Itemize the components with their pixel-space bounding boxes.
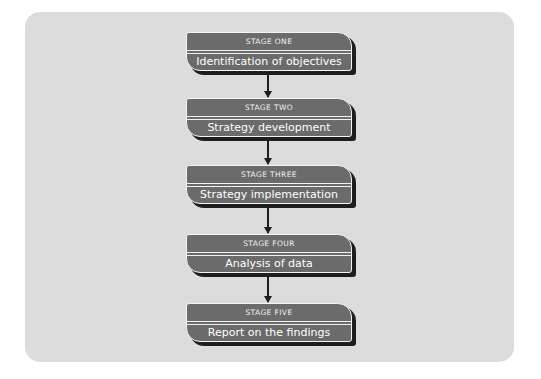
arrow-head-icon (264, 296, 272, 303)
stage-label: STAGE TWO (187, 99, 351, 116)
stage-label: STAGE FOUR (187, 235, 351, 252)
stage-label: STAGE FIVE (187, 304, 351, 321)
stage-title: Analysis of data (187, 256, 351, 272)
stage-box: STAGE ONE Identification of objectives (186, 32, 352, 71)
stage-box: STAGE TWO Strategy development (186, 98, 352, 137)
arrow-down-icon (267, 141, 269, 164)
arrow-head-icon (264, 227, 272, 234)
stage-label: STAGE THREE (187, 166, 351, 183)
arrow-head-icon (264, 158, 272, 165)
arrow-down-icon (267, 208, 269, 233)
stage-five-box: STAGE FIVE Report on the findings (186, 303, 352, 342)
arrow-head-icon (264, 91, 272, 98)
stage-box: STAGE THREE Strategy implementation (186, 165, 352, 204)
stage-three-box: STAGE THREE Strategy implementation (186, 165, 352, 204)
stage-four-box: STAGE FOUR Analysis of data (186, 234, 352, 273)
stage-title: Strategy development (187, 120, 351, 136)
stage-label: STAGE ONE (187, 33, 351, 50)
arrow-down-icon (267, 75, 269, 97)
stage-box: STAGE FIVE Report on the findings (186, 303, 352, 342)
arrow-down-icon (267, 277, 269, 302)
stage-title: Report on the findings (187, 325, 351, 341)
stage-title: Identification of objectives (187, 54, 351, 70)
stage-two-box: STAGE TWO Strategy development (186, 98, 352, 137)
stage-box: STAGE FOUR Analysis of data (186, 234, 352, 273)
stage-title: Strategy implementation (187, 187, 351, 203)
stage-one-box: STAGE ONE Identification of objectives (186, 32, 352, 71)
